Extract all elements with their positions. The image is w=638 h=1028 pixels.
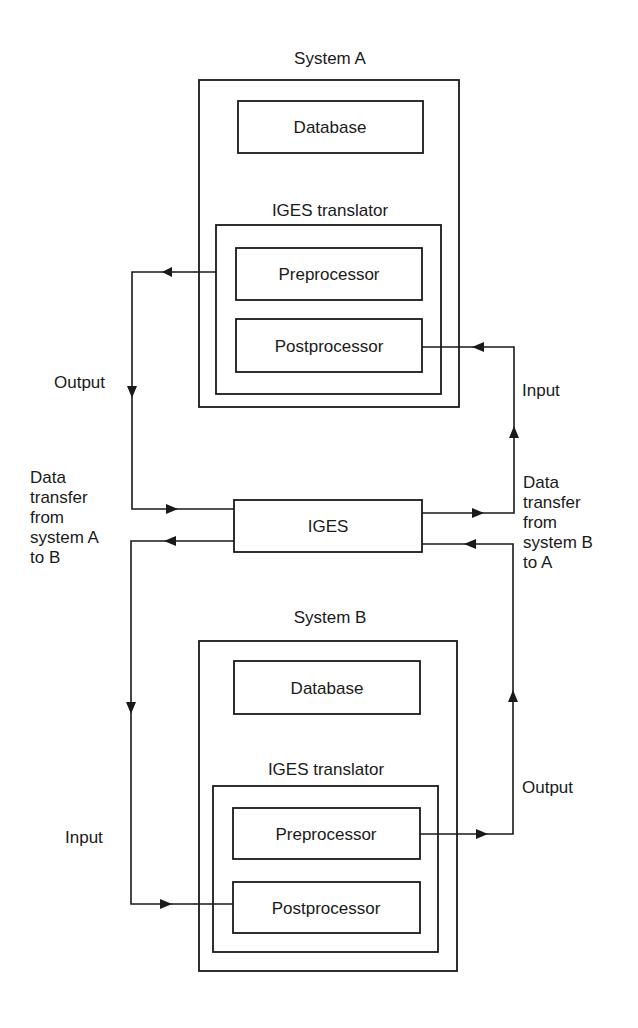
transfer-b-to-a-label: Data transfer from system B to A [523, 473, 593, 572]
arrow-down-icon [126, 702, 136, 714]
input-b-label: Input [65, 828, 103, 847]
postprocessor-label: Postprocessor [275, 337, 384, 356]
input-a-label: Input [522, 381, 560, 400]
iges-label: IGES [308, 517, 349, 536]
connector-line [420, 544, 513, 834]
system-a-database: Database [238, 101, 423, 153]
arrow-right-icon [160, 899, 172, 909]
arrow-left-icon [472, 342, 484, 352]
system-b-postprocessor: Postprocessor [233, 882, 420, 933]
flow-b-output-to-iges [420, 539, 518, 839]
label-line: to A [523, 553, 553, 572]
system-a-postprocessor: Postprocessor [236, 319, 422, 372]
system-b-preprocessor: Preprocessor [233, 808, 420, 859]
system-a-preprocessor: Preprocessor [236, 248, 422, 300]
output-a-label: Output [54, 373, 105, 392]
label-line: to B [30, 548, 60, 567]
flow-iges-to-a-input [422, 342, 519, 518]
arrow-right-icon [166, 504, 178, 514]
label-line: transfer [30, 488, 88, 507]
flow-iges-to-b-input [126, 536, 234, 909]
connector-line [131, 541, 234, 904]
transfer-a-to-b-label: Data transfer from system A to B [30, 468, 100, 567]
system-a: System A Database IGES translator Prepro… [199, 49, 459, 407]
label-line: Data [523, 473, 559, 492]
arrow-down-icon [127, 386, 137, 398]
label-line: transfer [523, 493, 581, 512]
label-line: from [523, 513, 557, 532]
iges-data-exchange-diagram: System A Database IGES translator Prepro… [0, 0, 638, 1028]
system-b-translator-title: IGES translator [268, 760, 385, 779]
output-b-label: Output [522, 778, 573, 797]
label-line: system B [523, 533, 593, 552]
arrow-up-icon [509, 426, 519, 438]
preprocessor-label: Preprocessor [275, 825, 376, 844]
arrow-right-icon [476, 829, 488, 839]
system-b: System B Database IGES translator Prepro… [199, 608, 457, 971]
system-a-translator-title: IGES translator [272, 201, 389, 220]
database-label: Database [294, 118, 367, 137]
database-label: Database [291, 679, 364, 698]
system-a-title: System A [294, 49, 366, 68]
preprocessor-label: Preprocessor [278, 265, 379, 284]
label-line: from [30, 508, 64, 527]
connector-line [132, 272, 234, 509]
flow-a-output-to-iges [127, 267, 234, 514]
postprocessor-label: Postprocessor [272, 899, 381, 918]
system-b-database: Database [234, 661, 420, 714]
label-line: Data [30, 468, 66, 487]
arrow-left-icon [164, 536, 176, 546]
arrow-right-icon [472, 508, 484, 518]
system-a-translator-box [216, 225, 441, 394]
iges-neutral-format: IGES [234, 500, 422, 552]
connector-line [422, 347, 514, 513]
label-line: system A [30, 528, 100, 547]
arrow-left-icon [464, 539, 476, 549]
system-b-title: System B [294, 608, 367, 627]
arrow-left-icon [162, 267, 172, 277]
system-b-translator-box [213, 786, 438, 952]
arrow-up-icon [508, 690, 518, 702]
